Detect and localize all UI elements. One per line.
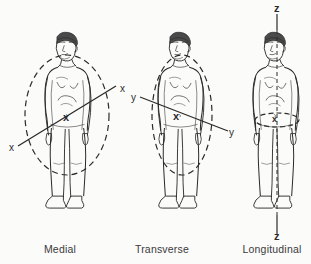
axis-label-y-lower-right: y — [229, 127, 234, 138]
caption-medial: Medial — [0, 243, 120, 255]
axis-origin-marker-x-medial: x — [63, 111, 69, 123]
axis-label-y-upper-left: y — [131, 92, 136, 103]
axis-label-x-upper-right: x — [120, 83, 125, 94]
transverse-axis-line-y — [140, 97, 228, 131]
axis-label-z-top: z — [274, 2, 280, 14]
caption-longitudinal: Longitudinal — [222, 243, 311, 255]
axis-origin-marker-x-transverse: x — [173, 110, 179, 122]
anatomical-axes-figure: x x x y y x z z x Medial Transverse Long… — [0, 0, 311, 264]
panel-longitudinal — [253, 14, 299, 234]
panel-transverse — [140, 32, 228, 208]
axis-label-x-lower-left: x — [9, 142, 14, 153]
axis-origin-marker-x-longitudinal: x — [272, 114, 277, 124]
caption-transverse: Transverse — [112, 243, 212, 255]
axis-label-z-bottom: z — [274, 230, 280, 242]
figure-linework — [0, 0, 311, 264]
